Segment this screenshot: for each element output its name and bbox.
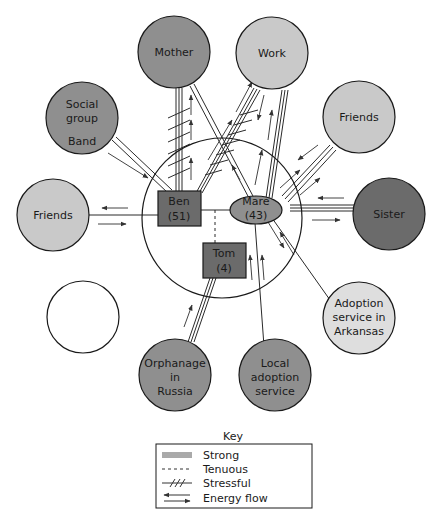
svg-text:Energy flow: Energy flow	[203, 492, 268, 505]
svg-text:Mother: Mother	[155, 46, 194, 59]
svg-text:Mare: Mare	[242, 195, 270, 208]
node-orphanage-russia: Orphanage in Russia	[139, 339, 211, 411]
svg-text:Work: Work	[258, 47, 286, 60]
legend: Key Strong Tenuous Stressful Energy flow	[156, 430, 312, 508]
connection-friends-left-ben	[88, 208, 158, 224]
node-adoption-arkansas: Adoption service in Arkansas	[323, 282, 395, 354]
connection-mother-ben	[168, 88, 191, 193]
node-friends-left: Friends	[17, 179, 89, 251]
svg-text:Friends: Friends	[33, 209, 73, 222]
node-empty	[47, 281, 119, 353]
svg-text:in: in	[170, 371, 180, 384]
svg-text:(4): (4)	[216, 262, 232, 275]
connections	[88, 82, 356, 360]
node-friends-right: Friends	[323, 81, 395, 153]
svg-text:Russia: Russia	[157, 385, 192, 398]
svg-text:Friends: Friends	[339, 111, 379, 124]
node-mother: Mother	[138, 16, 210, 88]
svg-text:Arkansas: Arkansas	[334, 325, 384, 338]
svg-text:(51): (51)	[168, 210, 191, 223]
svg-text:Local: Local	[261, 357, 290, 370]
svg-text:Ben: Ben	[168, 195, 189, 208]
svg-text:(43): (43)	[245, 209, 268, 222]
svg-text:Band: Band	[68, 135, 96, 148]
svg-text:Strong: Strong	[203, 449, 239, 462]
svg-text:Adoption: Adoption	[334, 297, 383, 310]
svg-text:group: group	[66, 112, 98, 125]
svg-text:Social: Social	[66, 98, 99, 111]
connection-mare-adoption-arkansas	[268, 218, 330, 300]
node-sister: Sister	[353, 178, 425, 250]
svg-text:adoption: adoption	[251, 371, 300, 384]
connection-mother-mare	[190, 84, 254, 200]
member-tom: Tom (4)	[203, 243, 246, 278]
connection-tom-orphanage	[184, 278, 216, 342]
ecomap-diagram: Mother Work Social group Band Friends Fr…	[0, 0, 448, 525]
svg-text:Stressful: Stressful	[203, 477, 251, 490]
member-mare: Mare (43)	[230, 195, 282, 224]
legend-title: Key	[223, 430, 243, 443]
svg-text:service: service	[255, 385, 295, 398]
svg-text:service in: service in	[333, 311, 386, 324]
svg-text:Sister: Sister	[373, 208, 405, 221]
node-social-group: Social group Band	[46, 82, 118, 154]
svg-text:Tom: Tom	[212, 247, 235, 260]
svg-text:Tenuous: Tenuous	[202, 463, 248, 476]
node-local-adoption: Local adoption service	[239, 339, 311, 411]
svg-text:Orphanage: Orphanage	[144, 357, 206, 370]
node-work: Work	[236, 17, 308, 89]
member-ben: Ben (51)	[158, 191, 201, 226]
connection-work-ben	[196, 82, 260, 193]
